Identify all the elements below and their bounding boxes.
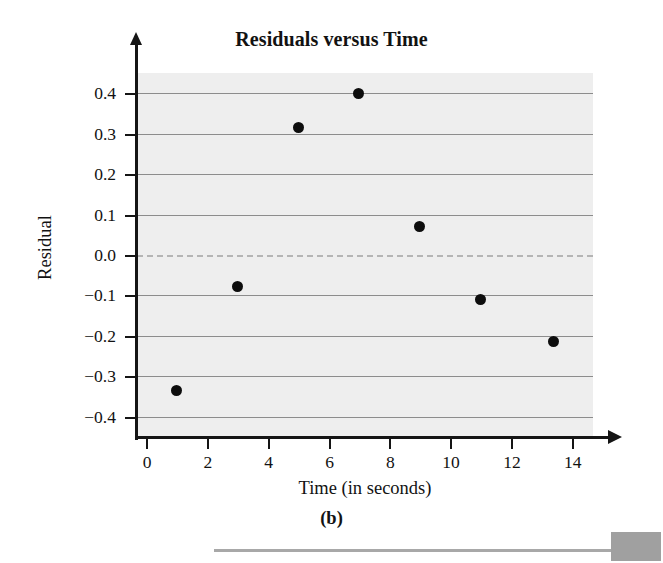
zero-reference-line	[137, 255, 593, 257]
x-axis-title: Time (in seconds)	[137, 478, 593, 499]
y-axis-tick	[125, 174, 136, 176]
x-axis-tick-label: 0	[127, 452, 167, 473]
grid-line	[137, 336, 593, 337]
residual-plot-figure: Residuals versus Time 0.40.30.20.10.0−0.…	[0, 0, 663, 563]
y-axis-tick-label: −0.2	[52, 325, 116, 346]
y-axis-tick-label: 0.2	[52, 164, 116, 185]
x-axis-tick	[146, 438, 148, 449]
y-axis-tick-label: −0.1	[52, 285, 116, 306]
y-axis-tick	[125, 417, 136, 419]
panel-label: (b)	[0, 508, 663, 529]
data-point	[548, 336, 559, 347]
data-point	[232, 281, 243, 292]
y-axis-title: Residual	[35, 173, 56, 323]
footer-divider	[214, 549, 614, 552]
grid-line	[137, 134, 593, 135]
x-axis-tick-label: 10	[431, 452, 471, 473]
x-axis-tick	[389, 438, 391, 449]
grid-line	[137, 174, 593, 175]
data-point	[475, 294, 486, 305]
data-point	[171, 385, 182, 396]
x-axis-tick-label: 4	[249, 452, 289, 473]
x-axis-tick	[450, 438, 452, 449]
x-axis-tick-label: 2	[188, 452, 228, 473]
footer-page-marker	[611, 532, 661, 561]
x-axis-tick	[511, 438, 513, 449]
x-axis-tick	[207, 438, 209, 449]
x-axis-tick-label: 8	[370, 452, 410, 473]
y-axis-tick-label: −0.3	[52, 366, 116, 387]
y-axis-tick	[125, 134, 136, 136]
x-axis-tick-label: 12	[492, 452, 532, 473]
y-axis-tick	[125, 295, 136, 297]
grid-line	[137, 417, 593, 418]
y-axis-tick	[125, 376, 136, 378]
y-axis-tick	[125, 215, 136, 217]
grid-line	[137, 215, 593, 216]
x-axis-tick	[572, 438, 574, 449]
grid-line	[137, 295, 593, 296]
y-axis-tick-label: 0.0	[52, 245, 116, 266]
y-axis-tick	[125, 93, 136, 95]
y-axis-line	[135, 42, 138, 440]
data-point	[414, 221, 425, 232]
y-axis-tick-label: −0.4	[52, 406, 116, 427]
grid-line	[137, 93, 593, 94]
x-axis-tick	[268, 438, 270, 449]
y-axis-arrow-icon	[130, 32, 142, 45]
data-point	[293, 122, 304, 133]
y-axis-tick	[125, 255, 136, 257]
x-axis-tick-label: 14	[553, 452, 593, 473]
x-axis-arrow-icon	[608, 430, 622, 444]
y-axis-tick-label: 0.3	[52, 123, 116, 144]
chart-title: Residuals versus Time	[0, 28, 663, 51]
x-axis-tick	[329, 438, 331, 449]
y-axis-tick-label: 0.4	[52, 83, 116, 104]
grid-line	[137, 376, 593, 377]
plot-area	[137, 73, 593, 437]
x-axis-tick-label: 6	[310, 452, 350, 473]
y-axis-tick-label: 0.1	[52, 204, 116, 225]
y-axis-tick	[125, 336, 136, 338]
data-point	[353, 88, 364, 99]
